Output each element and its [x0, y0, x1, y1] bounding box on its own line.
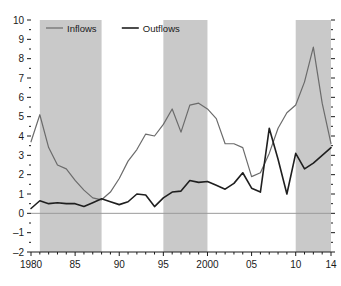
- x-tick-label: 2000: [196, 259, 219, 270]
- x-tick-label: 90: [114, 259, 126, 270]
- y-tick-label: 0: [18, 208, 24, 219]
- x-tick-label: 85: [70, 259, 82, 270]
- y-tick-label: 6: [18, 92, 24, 103]
- recession-band-3: [296, 20, 331, 252]
- y-tick-label: 7: [18, 73, 24, 84]
- x-tick-label: 14: [325, 259, 337, 270]
- chart-canvas: –2–1012345678910 19808590952000051014 In…: [0, 0, 341, 286]
- y-tick-label: 3: [18, 150, 24, 161]
- y-tick-label: 4: [18, 131, 24, 142]
- recession-band-2: [163, 20, 207, 252]
- x-tick-label: 10: [290, 259, 302, 270]
- y-tick-label: –1: [13, 227, 25, 238]
- y-tick-label: 2: [18, 169, 24, 180]
- legend-label-outflows: Outflows: [143, 23, 180, 34]
- recession-band-1: [40, 20, 102, 252]
- x-tick-label: 1980: [20, 259, 43, 270]
- y-tick-label: 10: [13, 15, 25, 26]
- legend-label-inflows: Inflows: [67, 23, 97, 34]
- y-tick-label: –2: [13, 247, 25, 258]
- y-tick-label: 8: [18, 53, 24, 64]
- chart-figure: –2–1012345678910 19808590952000051014 In…: [0, 0, 341, 286]
- y-tick-label: 5: [18, 111, 24, 122]
- y-tick-label: 9: [18, 34, 24, 45]
- x-tick-label: 95: [158, 259, 170, 270]
- y-tick-label: 1: [18, 189, 24, 200]
- x-tick-label: 05: [246, 259, 258, 270]
